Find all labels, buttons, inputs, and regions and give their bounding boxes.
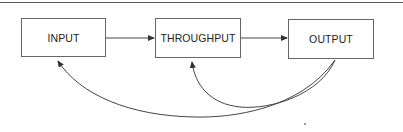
node-input: INPUT: [21, 18, 106, 57]
node-throughput-label: THROUGHPUT: [160, 32, 235, 44]
stray-dot-mark: [304, 123, 306, 125]
node-output: OUTPUT: [288, 19, 374, 59]
node-input-label: INPUT: [48, 32, 80, 44]
node-output-label: OUTPUT: [309, 33, 353, 45]
feedback-arrow-output-to-input: [58, 60, 335, 117]
feedback-arrow-output-to-throughput: [192, 60, 335, 107]
top-rule-divider: [0, 2, 403, 3]
node-throughput: THROUGHPUT: [155, 18, 241, 58]
